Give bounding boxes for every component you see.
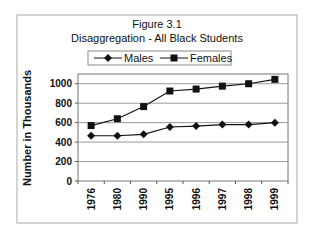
data-point-females [166, 88, 173, 95]
x-tick-label: 1997 [217, 188, 228, 211]
x-tick-label: 1995 [164, 188, 175, 211]
y-tick-label: 0 [66, 176, 72, 187]
x-tick-label: 1999 [269, 188, 280, 211]
y-tick-label: 200 [55, 156, 72, 167]
chart-title: Figure 3.1 [132, 18, 182, 30]
legend-females-square-icon [171, 55, 178, 62]
x-tick-label: 1976 [86, 188, 97, 211]
legend-females-label: Females [190, 52, 233, 64]
y-tick-label: 400 [55, 137, 72, 148]
x-tick-label: 1980 [112, 188, 123, 211]
x-tick-label: 1990 [138, 188, 149, 211]
chart-subtitle: Disaggregation - All Black Students [71, 32, 243, 44]
y-axis-label: Number in Thousands [21, 70, 33, 186]
data-point-females [88, 122, 95, 129]
data-point-females [193, 86, 200, 93]
x-tick-label: 1996 [191, 188, 202, 211]
data-point-females [140, 103, 147, 110]
y-tick-label: 600 [55, 117, 72, 128]
legend: Males Females [88, 51, 233, 65]
data-point-females [245, 80, 252, 87]
data-point-females [271, 76, 278, 83]
data-point-females [219, 83, 226, 90]
legend-males-label: Males [124, 52, 154, 64]
y-tick-label: 800 [55, 98, 72, 109]
y-tick-label: 1000 [50, 78, 73, 89]
x-tick-label: 1998 [243, 188, 254, 211]
data-point-females [114, 115, 121, 122]
chart: Figure 3.1 Disaggregation - All Black St… [0, 0, 312, 238]
